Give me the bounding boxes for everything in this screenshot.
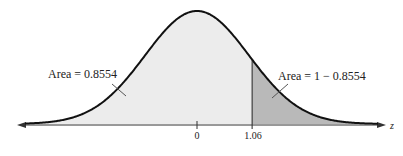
normal-curve-chart: 0 1.06 z Area = 0.8554 Area = 1 − 0.8554 (0, 0, 403, 156)
tick-z-label: 1.06 (244, 130, 262, 141)
right-area-label: Area = 1 − 0.8554 (278, 69, 366, 83)
left-area-label: Area = 0.8554 (48, 67, 117, 81)
left-arrow-icon (17, 122, 26, 128)
axis-z-label: z (389, 120, 394, 131)
tick-zero-label: 0 (195, 130, 200, 141)
right-arrow-icon (377, 122, 386, 128)
